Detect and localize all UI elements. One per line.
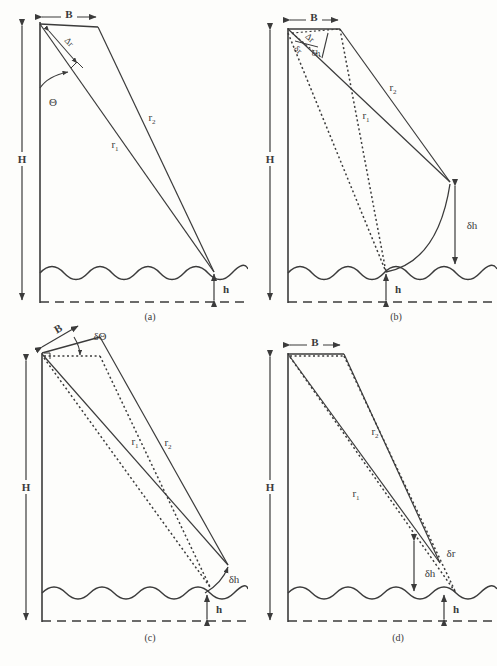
panel-a-drawing: H B Δr Θ r2 r1 h (a) [0, 0, 248, 325]
delta-h-label: δh [467, 219, 478, 231]
sea-surface-wave [288, 586, 497, 599]
delta-theta-arc [74, 337, 80, 355]
baseline-label: B [52, 325, 65, 336]
antenna-baseline [42, 337, 100, 353]
panel-b-caption: (b) [390, 311, 402, 323]
delta-h-label: δh [425, 567, 436, 579]
dotted-range-r2-line [100, 356, 210, 587]
figure-container: H B Δr Θ r2 r1 h (a) [0, 0, 497, 666]
baseline-label: B [65, 8, 73, 20]
range-r2-line [100, 337, 228, 565]
theta-arc [40, 72, 68, 88]
sea-height-label: h [453, 603, 459, 615]
height-label: H [22, 481, 31, 493]
panel-c: H B δΘ r2 r1 δh h (c) [0, 325, 248, 666]
panel-b: H B Δr δr δh r2 r1 δh h (b) [248, 0, 497, 325]
sea-surface-wave [288, 265, 497, 279]
sea-height-label: h [395, 283, 401, 295]
height-label: H [266, 481, 275, 493]
delta-h-top-label: δh [312, 48, 321, 58]
panel-c-caption: (c) [144, 632, 155, 644]
range-r2-label: r2 [148, 111, 156, 126]
range-r2-line [340, 29, 450, 182]
range-r1-label: r1 [111, 138, 119, 153]
delta-r-label: Δr [303, 31, 316, 44]
delta-h-arc [386, 184, 450, 272]
range-r1-label: r1 [352, 487, 360, 502]
range-r1-line [288, 354, 440, 563]
panel-a-caption: (a) [144, 311, 155, 323]
antenna-baseline [40, 24, 98, 27]
panel-d-drawing: H B r2 r1 δr δh h (d) [248, 325, 497, 666]
dotted-range-r1-line [288, 33, 386, 272]
range-r1-line [40, 24, 214, 272]
baseline-label: B [310, 11, 318, 23]
panel-b-drawing: H B Δr δr δh r2 r1 δh h (b) [248, 0, 497, 325]
dotted-range-r1-line [290, 357, 456, 593]
range-r1-label: r1 [131, 435, 139, 450]
sea-surface-wave [42, 586, 248, 599]
sea-height-label: h [216, 603, 222, 615]
delta-r-arrow [49, 31, 77, 63]
construction-vertical [322, 33, 328, 58]
panel-c-drawing: H B δΘ r2 r1 δh h (c) [0, 325, 248, 666]
range-r2-label: r2 [389, 81, 397, 96]
range-r1-label: r1 [362, 109, 370, 124]
delta-theta-label: δΘ [93, 330, 106, 342]
panel-a: H B Δr Θ r2 r1 h (a) [0, 0, 248, 325]
delta-h-arc [205, 567, 228, 593]
small-delta-r-label: δr [292, 44, 304, 56]
dotted-range-r1-line [44, 358, 210, 587]
height-label: H [18, 153, 27, 165]
range-r2-label: r2 [164, 436, 172, 451]
panel-d-caption: (d) [392, 632, 404, 644]
sea-surface-wave [40, 265, 248, 279]
panel-d: H B r2 r1 δr δh h (d) [248, 325, 497, 666]
dotted-range-r2-line [340, 29, 386, 272]
range-r1-line [42, 354, 228, 565]
delta-r-label: δr [447, 547, 456, 559]
delta-h-label: δh [229, 573, 240, 585]
sea-height-label: h [223, 283, 229, 295]
theta-label: Θ [49, 96, 57, 108]
height-label: H [266, 153, 275, 165]
baseline-label: B [311, 336, 319, 348]
delta-r-label: Δr [63, 35, 76, 48]
